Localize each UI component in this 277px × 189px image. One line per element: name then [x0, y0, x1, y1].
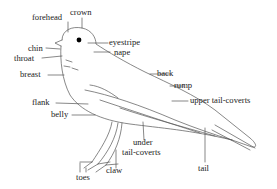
- label-claw: claw: [106, 166, 122, 175]
- label-throat: throat: [14, 54, 34, 63]
- label-toes: toes: [76, 173, 90, 182]
- label-crown: crown: [70, 8, 91, 17]
- label-rump: rump: [174, 81, 192, 90]
- label-tail: tail: [198, 164, 209, 173]
- eye-icon: [77, 38, 82, 43]
- label-belly: belly: [51, 110, 68, 119]
- label-back: back: [157, 69, 173, 78]
- label-flank: flank: [32, 98, 50, 107]
- label-upper-tail-coverts: upper tail-coverts: [190, 96, 250, 105]
- label-eyestripe: eyestripe: [109, 38, 140, 47]
- label-nape: nape: [114, 48, 130, 57]
- label-chin: chin: [28, 44, 43, 53]
- label-under: under: [133, 138, 153, 147]
- bird-anatomy-diagram: forehead crown eyestripe nape chin throa…: [0, 0, 277, 189]
- label-breast: breast: [20, 70, 41, 79]
- label-tail-coverts: tail-coverts: [122, 148, 161, 157]
- label-forehead: forehead: [32, 13, 62, 22]
